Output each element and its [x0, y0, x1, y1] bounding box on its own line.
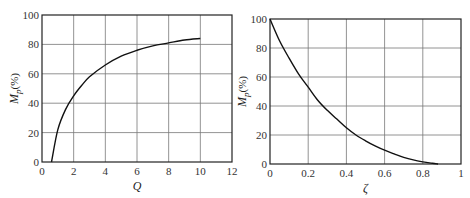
right-chart-mp-vs-zeta: 00.20.40.60.81020406080100ζMp(%) [235, 13, 464, 195]
right-x-tick-label: 0.2 [301, 167, 315, 179]
left-y-tick-label: 0 [34, 156, 40, 168]
right-y-tick-label: 0 [262, 158, 268, 170]
right-y-tick-label: 60 [256, 71, 268, 83]
right-y-axis-label: Mp(%) [235, 76, 251, 108]
left-y-tick-label: 80 [28, 38, 40, 50]
left-x-tick-label: 2 [71, 165, 77, 177]
left-x-tick-label: 8 [166, 165, 172, 177]
right-x-tick-label: 1 [458, 167, 464, 179]
right-y-tick-label: 100 [251, 13, 268, 25]
left-y-tick-label: 100 [23, 9, 40, 21]
left-y-tick-label: 20 [28, 127, 40, 139]
left-y-axis-label: Mp(%) [7, 73, 23, 105]
left-x-tick-label: 0 [39, 165, 45, 177]
left-x-tick-label: 12 [227, 165, 238, 177]
right-x-axis-label: ζ [363, 181, 369, 195]
chart-figure: 024681012020406080100QMp(%) 00.20.40.60.… [0, 0, 470, 198]
right-x-tick-label: 0.6 [378, 167, 392, 179]
right-x-tick-label: 0.8 [416, 167, 430, 179]
right-plot-frame [270, 19, 461, 164]
left-chart-mp-vs-q: 024681012020406080100QMp(%) [7, 9, 238, 193]
left-grid [42, 15, 232, 162]
right-data-curve [270, 19, 438, 164]
right-y-tick-label: 20 [256, 129, 268, 141]
left-y-tick-label: 60 [28, 68, 40, 80]
right-x-tick-label: 0 [267, 167, 273, 179]
left-y-tick-label: 40 [28, 97, 40, 109]
right-y-tick-label: 80 [256, 42, 268, 54]
right-y-tick-label: 40 [256, 100, 268, 112]
left-x-tick-label: 6 [134, 165, 140, 177]
right-x-tick-label: 0.4 [340, 167, 354, 179]
right-grid [270, 19, 461, 164]
left-x-tick-label: 4 [103, 165, 109, 177]
left-x-tick-label: 10 [195, 165, 207, 177]
left-x-axis-label: Q [133, 179, 142, 193]
